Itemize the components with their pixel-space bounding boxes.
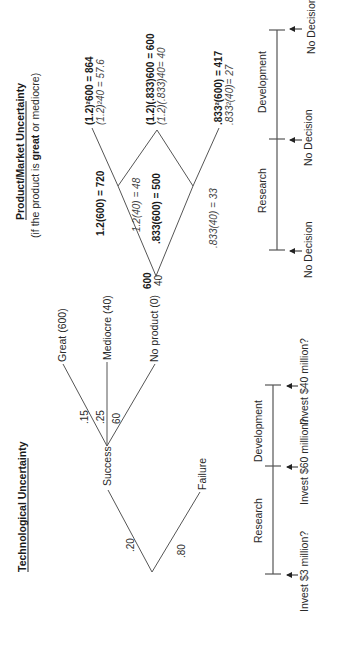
prob-failure: .80 (176, 544, 187, 558)
down-great: .833(600) = 500 (151, 173, 162, 244)
prob-great: .15 (79, 410, 90, 424)
decision-tree-diagram: Technological Uncertainty .20 .80 Succes… (0, 0, 339, 662)
market-uncertainty-section: Product/Market Uncertainty (if the produ… (14, 33, 235, 289)
decision-invest-60m: Invest $60 million? (298, 418, 310, 505)
prob-success: .20 (125, 538, 136, 552)
timeline-no-decision: Research Development No Decision No Deci… (256, 0, 317, 278)
decision-none-3: No Decision (305, 0, 317, 54)
no-product-label: No product (0) (148, 295, 160, 362)
decision-none-2: No Decision (302, 109, 314, 166)
market-title: Product/Market Uncertainty (14, 83, 26, 220)
phase-development: Development (252, 400, 264, 462)
tech-title: Technological Uncertainty (16, 441, 28, 572)
edge-down-downdown (193, 128, 219, 186)
phase-research: Research (252, 498, 264, 543)
prob-no-product: 60 (111, 412, 122, 424)
branch-failure (152, 492, 200, 572)
branch-success (108, 490, 152, 572)
upup-mediocre: (1.2)²40 = 57.6 (95, 59, 106, 125)
tech-uncertainty-section: Technological Uncertainty .20 .80 Succes… (16, 295, 208, 572)
branch-great (63, 364, 107, 446)
timeline-investment: Research Development Invest $3 million? … (252, 338, 310, 612)
decision-invest-40m: Invest $40 million? (298, 338, 310, 425)
downdown-great: .833²(600) = 417 (213, 50, 224, 125)
down-mediocre: .833(40) = 33 (208, 188, 219, 248)
branch-no-product (107, 364, 155, 446)
success-label: Success (101, 446, 113, 486)
decision-invest-3m: Invest $3 million? (298, 531, 310, 612)
edge-down-updown (157, 130, 193, 186)
phase-research: Research (256, 168, 268, 213)
up-mediocre: 1.2(40) = 48 (131, 177, 142, 232)
market-subtitle: (if the product is great or mediocre) (29, 73, 41, 238)
mediocre-label: Mediocre (40) (101, 295, 113, 360)
prob-mediocre: .25 (95, 410, 106, 424)
updown-mediocre: (1.2)(.833)40= 40 (156, 47, 167, 125)
phase-development: Development (256, 51, 268, 113)
root-great: 600 (142, 272, 153, 289)
updown-great: (1.2)(.833)600 = 600 (145, 33, 156, 125)
root-mediocre: 40 (153, 274, 164, 286)
decision-none-1: No Decision (302, 221, 314, 278)
up-great: 1.2(600) = 720 (95, 170, 106, 236)
failure-label: Failure (196, 458, 208, 490)
great-label: Great (600) (56, 308, 68, 362)
upup-great: (1.2)²600 = 864 (84, 56, 95, 125)
downdown-mediocre: .833²(40)= 27 (224, 64, 235, 125)
